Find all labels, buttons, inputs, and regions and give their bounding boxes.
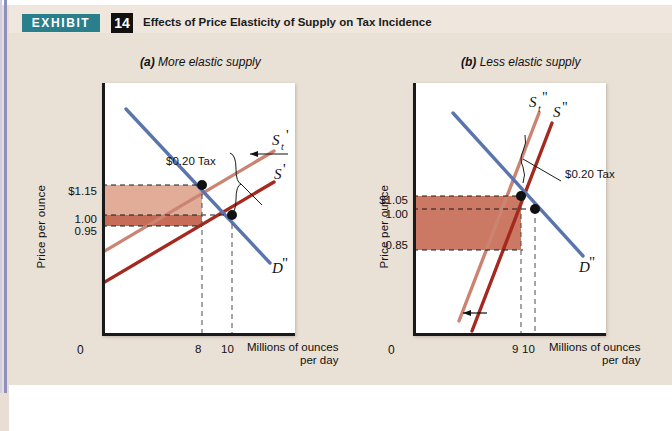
- panel-a-title: (a) More elastic supply: [140, 55, 261, 69]
- svg-text:S: S: [272, 132, 280, 148]
- exhibit-title: Effects of Price Elasticity of Supply on…: [143, 16, 432, 28]
- svg-text:S: S: [553, 104, 561, 120]
- panel-a-xtick-8: 8: [195, 343, 201, 355]
- panel-b-title: (b) Less elastic supply: [461, 55, 580, 69]
- panel-a-y-axis-label: Price per ounce: [35, 185, 47, 269]
- svg-text:': ': [286, 127, 289, 143]
- panel-b-x-axis-label: Millions of ounces per day: [549, 341, 640, 367]
- panel-a-xtick-10: 10: [221, 343, 234, 355]
- svg-text:': ': [283, 161, 286, 177]
- panel-a-x-axis-label-line2: per day: [247, 354, 338, 367]
- panel-b-title-text: Less elastic supply: [480, 55, 581, 69]
- panel-a-plot: S t ' S ' D ": [102, 83, 295, 336]
- panel-b-ytick-105: $1.05: [360, 194, 408, 206]
- panel-a-origin: 0: [77, 343, 84, 357]
- svg-text:": ": [282, 255, 288, 271]
- caption-area: The imposition of a $0.20-per-ounce tax …: [9, 385, 672, 431]
- panel-a-title-text: More elastic supply: [158, 55, 261, 69]
- page-left-rule: [4, 0, 7, 393]
- svg-text:": ": [589, 254, 595, 270]
- panel-b-tax-annotation: $0.20 Tax: [565, 168, 615, 180]
- panel-b-x-axis-label-line1: Millions of ounces: [549, 341, 640, 353]
- svg-text:S: S: [274, 166, 282, 182]
- panel-b-xtick-9: 9: [512, 343, 518, 355]
- panel-b-plot: S t " S " D ": [413, 83, 606, 336]
- panel-b-ytick-100: 1.00: [360, 208, 408, 220]
- panel-b-xtick-10: 10: [522, 343, 535, 355]
- panel-a-ytick-095: 0.95: [49, 225, 97, 237]
- panel-a-x-axis-label-line1: Millions of ounces: [247, 341, 338, 353]
- svg-text:": ": [542, 90, 548, 105]
- figure-area: (a) More elastic supply Price per ounce …: [9, 33, 672, 385]
- panel-b-ytick-085: 0.85: [360, 239, 408, 251]
- panel-a-title-prefix: (a): [140, 55, 155, 69]
- panel-b-origin: 0: [388, 343, 395, 357]
- exhibit-number-box: 14: [111, 13, 133, 33]
- svg-text:S: S: [529, 94, 537, 110]
- panel-a-ytick-100: 1.00: [49, 213, 97, 225]
- exhibit-header: EXHIBIT 14 Effects of Price Elasticity o…: [9, 5, 672, 33]
- panel-a-ytick-115: $1.15: [49, 185, 97, 197]
- panel-a-tax-annotation: $0.20 Tax: [166, 155, 216, 167]
- svg-text:": ": [562, 100, 568, 115]
- panel-b-x-axis-label-line2: per day: [549, 354, 640, 367]
- svg-text:t: t: [538, 103, 541, 114]
- exhibit-badge: EXHIBIT: [22, 14, 100, 32]
- panel-a-x-axis-label: Millions of ounces per day: [247, 341, 338, 367]
- exhibit-page: EXHIBIT 14 Effects of Price Elasticity o…: [0, 0, 672, 431]
- page-left-edge: [0, 0, 2, 393]
- panel-b-title-prefix: (b): [461, 55, 476, 69]
- svg-text:t: t: [281, 141, 284, 152]
